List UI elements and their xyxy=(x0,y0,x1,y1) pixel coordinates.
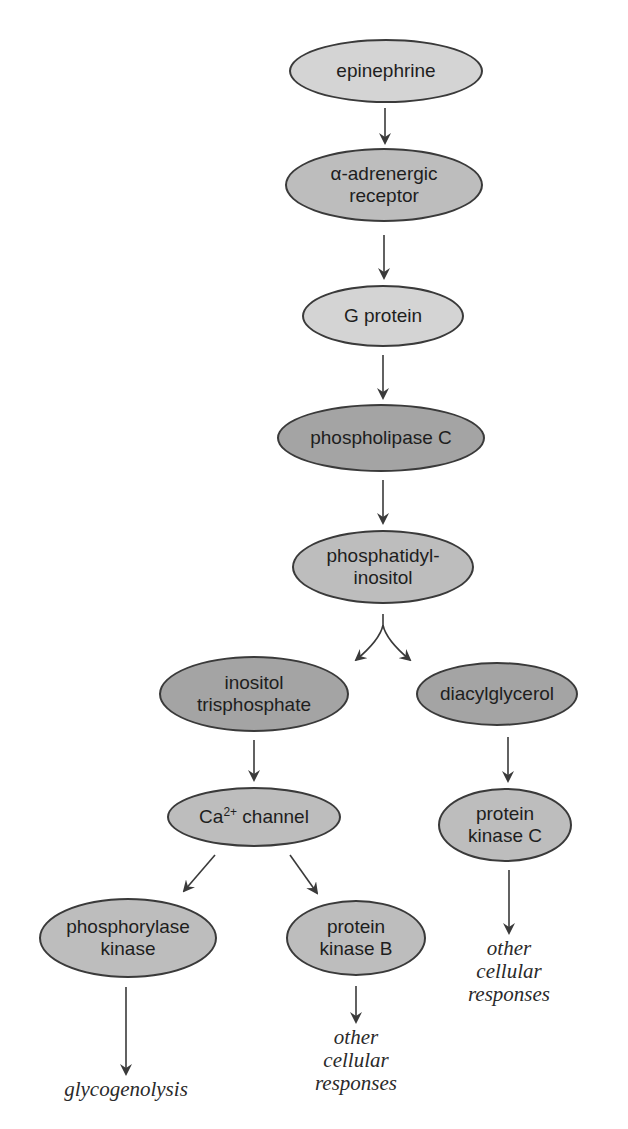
outcome-line3: responses xyxy=(300,1072,412,1095)
node-label: phospholipase C xyxy=(310,427,452,449)
outcome-other-responses-pkc: other cellular responses xyxy=(453,937,565,1006)
ca-superscript: 2+ xyxy=(223,805,237,819)
outcome-glycogenolysis: glycogenolysis xyxy=(26,1078,226,1101)
ca-prefix: Ca xyxy=(199,806,223,827)
node-label-line1: phosphatidyl- xyxy=(326,545,439,567)
node-ca-channel: Ca2+ channel xyxy=(167,787,341,847)
ca-suffix: channel xyxy=(237,806,309,827)
node-label-line2: inositol xyxy=(326,567,439,589)
node-label-line1: protein xyxy=(468,803,542,825)
arrow-ca-pkb xyxy=(290,855,317,893)
node-g-protein: G protein xyxy=(302,285,464,347)
node-label-line2: trisphosphate xyxy=(197,694,311,716)
node-label-line2: receptor xyxy=(330,185,437,207)
arrow-pi-dag xyxy=(383,625,410,660)
arrow-ca-phk xyxy=(184,855,215,891)
node-phospholipase-c: phospholipase C xyxy=(277,404,485,472)
node-label: G protein xyxy=(344,305,422,327)
node-label: epinephrine xyxy=(336,60,435,82)
node-inositol-trisphosphate: inositol trisphosphate xyxy=(159,656,349,732)
node-phosphatidylinositol: phosphatidyl- inositol xyxy=(292,530,474,604)
node-diacylglycerol: diacylglycerol xyxy=(416,662,578,726)
node-phosphorylase-kinase: phosphorylase kinase xyxy=(39,898,217,978)
outcome-line2: cellular xyxy=(453,960,565,983)
node-label-line2: kinase B xyxy=(320,938,393,960)
outcome-other-responses-pkb: other cellular responses xyxy=(300,1026,412,1095)
node-label-line1: protein xyxy=(320,916,393,938)
node-label-line2: kinase C xyxy=(468,825,542,847)
node-alpha-adrenergic-receptor: α-adrenergic receptor xyxy=(285,148,483,222)
node-label: diacylglycerol xyxy=(440,683,554,705)
outcome-line1: other xyxy=(300,1026,412,1049)
outcome-line1: other xyxy=(453,937,565,960)
node-protein-kinase-c: protein kinase C xyxy=(438,788,572,862)
outcome-line3: responses xyxy=(453,983,565,1006)
node-label: Ca2+ channel xyxy=(199,806,309,828)
node-epinephrine: epinephrine xyxy=(289,39,483,103)
outcome-label: glycogenolysis xyxy=(64,1077,188,1101)
node-label-line1: inositol xyxy=(197,672,311,694)
node-label-line2: kinase xyxy=(66,938,190,960)
node-label-line1: α-adrenergic xyxy=(330,163,437,185)
node-protein-kinase-b: protein kinase B xyxy=(286,900,426,976)
signaling-pathway-diagram: epinephrine α-adrenergic receptor G prot… xyxy=(0,0,628,1129)
outcome-line2: cellular xyxy=(300,1049,412,1072)
node-label-line1: phosphorylase xyxy=(66,916,190,938)
arrow-pi-ip3 xyxy=(356,614,383,660)
